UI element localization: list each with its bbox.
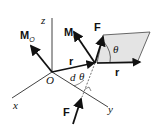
moment-diagram bbox=[0, 0, 160, 133]
y-axis-label: y bbox=[108, 104, 113, 115]
moment-vector-left bbox=[31, 46, 52, 72]
plane bbox=[97, 32, 150, 63]
x-axis-label: x bbox=[13, 100, 18, 111]
moment-right-label: MO bbox=[64, 27, 79, 40]
force-bottom-label: F bbox=[63, 107, 70, 118]
moment-left-label: MO bbox=[20, 30, 35, 43]
distance-label: d bbox=[70, 72, 76, 83]
force-vector-bottom bbox=[73, 99, 81, 124]
z-axis-label: z bbox=[41, 15, 45, 26]
r-left-label: r bbox=[69, 56, 73, 67]
force-top-label: F bbox=[94, 22, 101, 33]
r-right-label: r bbox=[115, 67, 119, 78]
angle-top-label: θ bbox=[113, 44, 118, 55]
r-vector-right bbox=[97, 62, 140, 63]
origin-label: O bbox=[46, 75, 54, 86]
angle-bottom-label: θ bbox=[79, 71, 84, 82]
